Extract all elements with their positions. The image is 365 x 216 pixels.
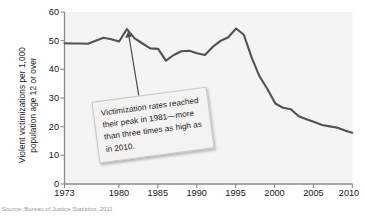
x-tick-1995: 1995 [225, 188, 245, 198]
x-tick-1985: 1985 [148, 188, 168, 198]
x-tick-1990: 1990 [186, 188, 206, 198]
x-tick-2010: 2010 [339, 188, 359, 198]
x-tick-1980: 1980 [109, 188, 129, 198]
x-tick-1973: 1973 [54, 188, 74, 198]
x-tick-2005: 2005 [303, 188, 323, 198]
source-note: Source: Bureau of Justice Statistics, 20… [2, 206, 362, 216]
callout-text: Victimization rates reached their peak i… [100, 95, 207, 157]
chart-figure: Violent victimizations per 1,000 populat… [0, 0, 365, 216]
x-tick-2000: 2000 [264, 188, 284, 198]
